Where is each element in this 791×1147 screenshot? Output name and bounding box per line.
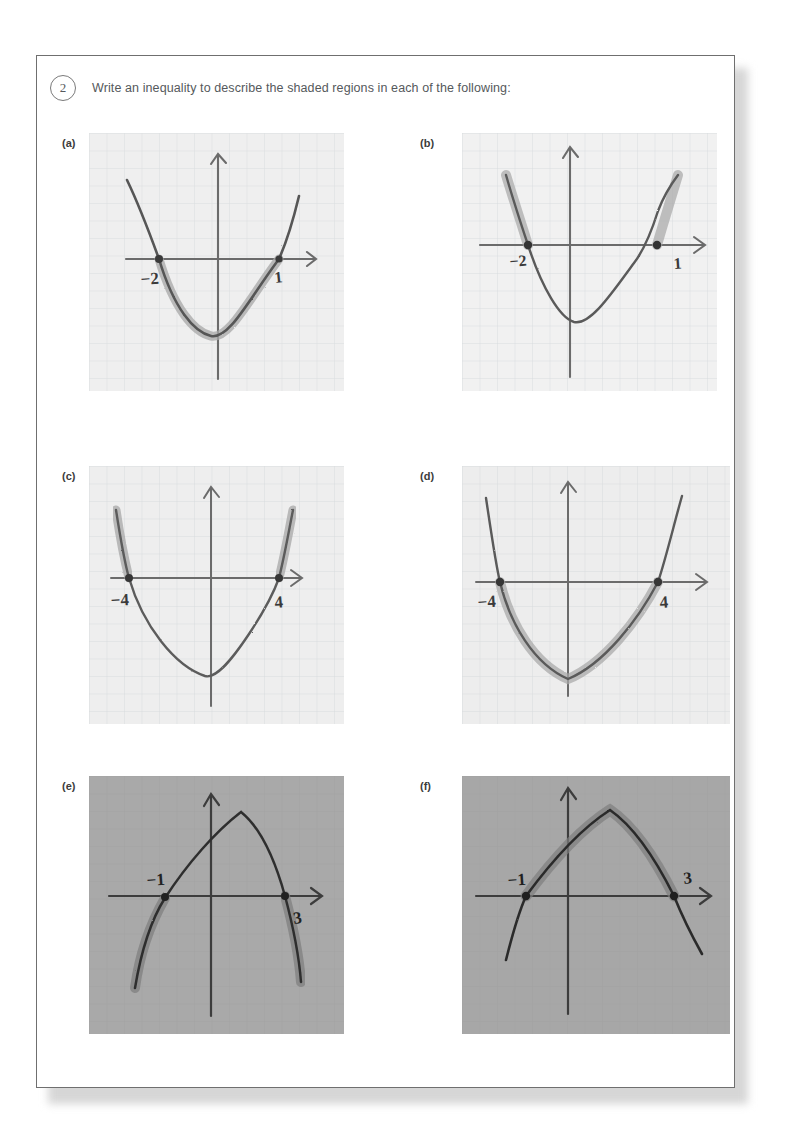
panel-label-b: (b) xyxy=(420,137,434,149)
graph-photo-f: −1 3 xyxy=(462,776,730,1034)
root-label-left-c: −4 xyxy=(110,590,130,610)
root-label-left-f: −1 xyxy=(507,870,526,890)
panel-label-d: (d) xyxy=(420,470,434,482)
graph-photo-a: −2 1 xyxy=(89,133,344,391)
graph-photo-e: −1 3 xyxy=(89,776,344,1034)
root-label-left-d: −4 xyxy=(477,592,497,612)
graph-panel-b: (b) xyxy=(420,133,702,395)
panel-label-c: (c) xyxy=(62,470,75,482)
panel-label-a: (a) xyxy=(62,137,75,149)
graph-photo-d: −4 4 xyxy=(462,466,730,724)
root-label-left-e: −1 xyxy=(146,870,165,890)
graph-panel-f: (f) xyxy=(420,776,702,1038)
panel-label-e: (e) xyxy=(62,780,75,792)
graph-panel-e: (e) xyxy=(62,776,344,1038)
graph-photo-c: −4 4 xyxy=(89,466,344,724)
graph-panel-a: (a) xyxy=(62,133,344,395)
graph-photo-b: −2 1 xyxy=(462,133,717,391)
root-label-left-b: −2 xyxy=(509,252,528,270)
graph-panel-d: (d) xyxy=(420,466,702,728)
question-number-badge: 2 xyxy=(50,75,76,101)
question-heading: 2 Write an inequality to describe the sh… xyxy=(36,71,726,105)
graph-panel-c: (c) xyxy=(62,466,344,728)
question-heading-text: Write an inequality to describe the shad… xyxy=(92,81,511,95)
root-label-left-a: −2 xyxy=(140,269,159,289)
root-label-right-b: 1 xyxy=(673,254,682,272)
panel-label-f: (f) xyxy=(420,780,431,792)
